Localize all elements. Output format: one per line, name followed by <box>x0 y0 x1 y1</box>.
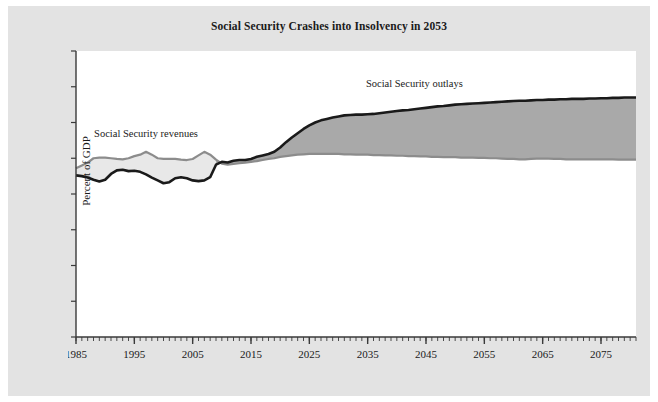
x-tick-label: 2075 <box>590 348 613 360</box>
plot-area-wrapper: Percent of GDP 0123456781985199520052015… <box>68 45 638 375</box>
x-tick-label: 2065 <box>532 348 555 360</box>
x-tick-label: 1995 <box>123 348 146 360</box>
chart-panel: Social Security Crashes into Insolvency … <box>8 6 650 396</box>
x-tick-label: 1985 <box>68 348 88 360</box>
series-annotation-outlays: Social Security outlays <box>366 78 463 89</box>
x-tick-label: 2055 <box>473 348 496 360</box>
x-tick-label: 2015 <box>240 348 263 360</box>
series-annotation-revenues: Social Security revenues <box>94 128 198 139</box>
y-axis-label: Percent of GDP <box>80 111 92 231</box>
chart-title: Social Security Crashes into Insolvency … <box>8 20 650 32</box>
x-tick-label: 2025 <box>298 348 321 360</box>
x-tick-label: 2045 <box>415 348 438 360</box>
chart-page: Social Security Crashes into Insolvency … <box>0 0 658 402</box>
chart-svg: 0123456781985199520052015202520352045205… <box>68 45 638 375</box>
x-tick-label: 2005 <box>182 348 205 360</box>
x-tick-label: 2035 <box>357 348 380 360</box>
